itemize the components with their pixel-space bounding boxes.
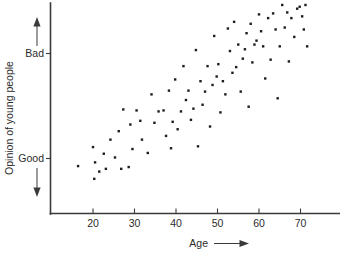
data-point bbox=[219, 111, 221, 113]
x-axis-tick-labels: 20 30 40 50 60 70 bbox=[87, 217, 306, 229]
data-point bbox=[264, 77, 266, 79]
plot-canvas: 20 30 40 50 60 70 Bad Good Opinion of bbox=[0, 0, 340, 254]
data-point bbox=[260, 30, 262, 32]
data-point bbox=[242, 57, 244, 59]
data-point bbox=[93, 178, 95, 180]
data-point bbox=[129, 123, 131, 125]
data-point bbox=[281, 4, 283, 6]
data-point bbox=[231, 72, 233, 74]
x-tick-label-5: 70 bbox=[295, 217, 307, 229]
data-point bbox=[250, 23, 252, 25]
data-point bbox=[98, 170, 100, 172]
data-point bbox=[215, 75, 217, 77]
data-point bbox=[272, 12, 274, 14]
data-point bbox=[92, 146, 94, 148]
y-label-bad: Bad bbox=[25, 47, 44, 59]
data-point bbox=[284, 26, 286, 28]
x-tick-label-3: 50 bbox=[212, 217, 224, 229]
data-point bbox=[206, 65, 208, 67]
data-point bbox=[222, 80, 224, 82]
data-point bbox=[162, 109, 164, 111]
data-point bbox=[296, 8, 298, 10]
data-point bbox=[251, 61, 253, 63]
down-arrow-icon bbox=[33, 168, 40, 197]
axis-lines bbox=[51, 3, 340, 214]
data-point bbox=[244, 48, 246, 50]
data-point bbox=[187, 89, 189, 91]
data-point bbox=[288, 60, 290, 62]
data-point bbox=[209, 125, 211, 127]
data-point bbox=[227, 27, 229, 29]
data-points-layer bbox=[77, 4, 308, 180]
data-point bbox=[293, 36, 295, 38]
data-point bbox=[197, 145, 199, 147]
data-point bbox=[253, 43, 255, 45]
data-point bbox=[276, 97, 278, 99]
data-point bbox=[122, 108, 124, 110]
data-point bbox=[131, 148, 133, 150]
data-point bbox=[204, 90, 206, 92]
x-tick-label-0: 20 bbox=[87, 217, 99, 229]
data-point bbox=[77, 165, 79, 167]
data-point bbox=[180, 110, 182, 112]
data-point bbox=[262, 45, 264, 47]
data-point bbox=[301, 15, 303, 17]
data-point bbox=[224, 93, 226, 95]
data-point bbox=[94, 161, 96, 163]
data-point bbox=[165, 135, 167, 137]
data-point bbox=[269, 58, 271, 60]
data-point bbox=[255, 39, 257, 41]
data-point bbox=[141, 138, 143, 140]
data-point bbox=[153, 122, 155, 124]
data-point bbox=[118, 130, 120, 132]
data-point bbox=[114, 156, 116, 158]
data-point bbox=[298, 6, 300, 8]
data-point bbox=[182, 65, 184, 67]
data-point bbox=[170, 147, 172, 149]
y-axis-title: Opinion of young people bbox=[3, 61, 15, 175]
data-point bbox=[185, 99, 187, 101]
data-point bbox=[267, 17, 269, 19]
data-point bbox=[247, 106, 249, 108]
scatter-plot-figure: 20 30 40 50 60 70 Bad Good Opinion of bbox=[0, 0, 340, 254]
data-point bbox=[211, 84, 213, 86]
data-point bbox=[192, 107, 194, 109]
data-point bbox=[157, 110, 159, 112]
data-point bbox=[279, 45, 281, 47]
data-point bbox=[213, 35, 215, 37]
data-point bbox=[306, 45, 308, 47]
x-tick-label-1: 30 bbox=[129, 217, 141, 229]
data-point bbox=[258, 13, 260, 15]
data-point bbox=[303, 28, 305, 30]
data-point bbox=[171, 121, 173, 123]
data-point bbox=[245, 32, 247, 34]
data-point bbox=[201, 104, 203, 106]
data-point bbox=[274, 28, 276, 30]
data-point bbox=[147, 152, 149, 154]
x-tick-label-4: 60 bbox=[253, 217, 265, 229]
data-point bbox=[105, 168, 107, 170]
data-point bbox=[237, 43, 239, 45]
data-point bbox=[120, 168, 122, 170]
data-point bbox=[174, 78, 176, 80]
up-arrow-icon bbox=[33, 17, 40, 46]
data-point bbox=[135, 109, 137, 111]
data-point bbox=[190, 119, 192, 121]
data-point bbox=[240, 90, 242, 92]
data-point bbox=[304, 4, 306, 6]
data-point bbox=[176, 128, 178, 130]
y-label-good: Good bbox=[18, 152, 44, 164]
data-point bbox=[109, 138, 111, 140]
data-point bbox=[103, 153, 105, 155]
x-axis-title: Age bbox=[189, 237, 208, 249]
data-point bbox=[127, 166, 129, 168]
data-point bbox=[235, 66, 237, 68]
data-point bbox=[286, 11, 288, 13]
x-tick-label-2: 40 bbox=[170, 217, 182, 229]
data-point bbox=[217, 63, 219, 65]
data-point bbox=[139, 120, 141, 122]
data-point bbox=[168, 89, 170, 91]
data-point bbox=[233, 21, 235, 23]
data-point bbox=[229, 50, 231, 52]
data-point bbox=[195, 49, 197, 51]
